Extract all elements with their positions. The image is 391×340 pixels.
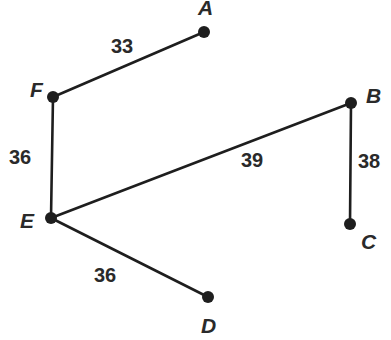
vertex-label-f: F xyxy=(30,78,44,101)
edge-f-e xyxy=(51,97,53,218)
weighted-graph-diagram: 3336393836 AFEBCD xyxy=(0,0,391,340)
edge-b-c xyxy=(350,103,351,224)
vertex-f xyxy=(47,91,59,103)
vertex-b xyxy=(345,97,357,109)
vertex-label-b: B xyxy=(366,84,381,107)
vertex-label-d: D xyxy=(201,314,216,337)
edge-weight-f-a: 33 xyxy=(111,35,133,57)
edge-weight-f-e: 36 xyxy=(9,146,31,168)
vertex-label-c: C xyxy=(361,230,377,253)
edge-weight-e-d: 36 xyxy=(94,264,116,286)
vertex-c xyxy=(344,218,356,230)
vertex-d xyxy=(202,291,214,303)
vertex-a xyxy=(198,26,210,38)
edge-e-b xyxy=(51,103,351,218)
vertex-label-a: A xyxy=(197,0,213,19)
edge-weight-e-b: 39 xyxy=(241,149,263,171)
edge-e-d xyxy=(51,218,208,297)
edge-weight-b-c: 38 xyxy=(358,150,380,172)
vertex-e xyxy=(45,212,57,224)
vertex-label-e: E xyxy=(20,209,35,232)
